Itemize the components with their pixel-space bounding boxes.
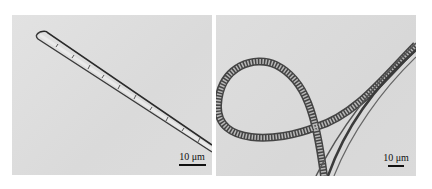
scale-bar-label: 10 μm <box>172 152 212 162</box>
scale-bar: 10 μm <box>172 152 212 166</box>
micrograph-panel-left: 10 μm <box>12 15 212 175</box>
scale-bar-line <box>388 165 404 167</box>
scale-bar-line <box>179 164 206 166</box>
scale-bar-label: 10 μm <box>376 153 416 163</box>
scale-bar: 10 μm <box>376 153 416 167</box>
micrograph-panel-right: 10 μm <box>216 15 416 176</box>
